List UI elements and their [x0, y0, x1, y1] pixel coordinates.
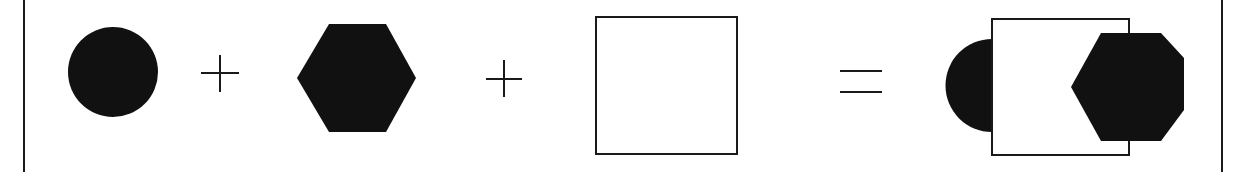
plus-operator-icon: [201, 55, 239, 92]
outlined-square-icon: [596, 17, 737, 154]
plus-operator-icon: [486, 60, 522, 97]
filled-hexagon-icon: [297, 24, 416, 132]
result-hexagon-icon: [1071, 33, 1184, 141]
composite-result-figure: [946, 19, 1184, 155]
half-circle-icon: [946, 39, 992, 132]
shape-equation-diagram: [0, 0, 1260, 172]
equals-operator-icon: [840, 71, 882, 92]
filled-circle-icon: [68, 27, 158, 117]
